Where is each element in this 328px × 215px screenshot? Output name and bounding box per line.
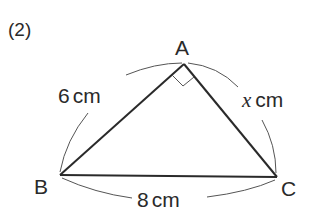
problem-number: (2)	[8, 19, 31, 40]
side-ac-label: xcm	[241, 88, 283, 112]
vertex-c-label: C	[281, 177, 296, 200]
diagram-canvas: (2) A B C 6cm xcm 8cm	[0, 0, 328, 215]
side-ab	[60, 64, 184, 175]
arc-ac-lower	[262, 120, 276, 173]
triangle-diagram: (2) A B C 6cm xcm 8cm	[0, 0, 328, 215]
side-bc	[60, 175, 277, 177]
vertex-b-label: B	[34, 175, 48, 198]
side-ac	[184, 64, 277, 177]
right-angle-mark	[172, 75, 194, 86]
side-bc-label: 8cm	[137, 188, 180, 211]
vertex-a-label: A	[175, 36, 189, 59]
arc-bc-left	[62, 178, 132, 198]
arc-bc-right	[207, 180, 275, 197]
arc-ac-upper	[188, 63, 238, 87]
side-ab-label: 6cm	[58, 84, 101, 107]
